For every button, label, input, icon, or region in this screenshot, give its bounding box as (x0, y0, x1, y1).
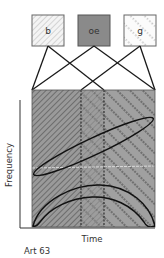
spectrogram-diagram: b oe g (0, 0, 164, 258)
source-box-oe: oe (78, 15, 110, 46)
source-box-b: b (32, 15, 64, 46)
x-axis-label: Time (81, 234, 103, 244)
source-box-g: g (124, 15, 156, 46)
source-label-b: b (45, 26, 51, 36)
connector-lines (32, 46, 155, 90)
y-axis-label: Frequency (4, 143, 14, 187)
region-oe-overlap (81, 90, 104, 227)
plot-area (30, 90, 157, 227)
region-g (104, 90, 155, 227)
source-label-oe: oe (88, 26, 100, 36)
source-label-g: g (137, 26, 143, 36)
figure-caption: Art 63 (24, 246, 50, 256)
